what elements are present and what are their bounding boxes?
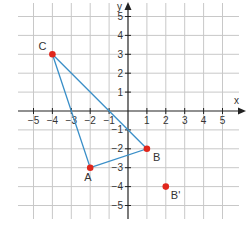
x-axis-label: x bbox=[234, 95, 239, 106]
point-c bbox=[49, 51, 56, 58]
y-tick-label: −1 bbox=[112, 124, 124, 135]
point-b bbox=[144, 146, 151, 153]
x-tick-label: −2 bbox=[84, 115, 96, 126]
point-label: C bbox=[38, 40, 46, 52]
y-tick-label: −3 bbox=[112, 162, 124, 173]
y-tick-label: 3 bbox=[117, 49, 123, 60]
y-tick-label: −5 bbox=[112, 200, 124, 211]
x-tick-label: −5 bbox=[28, 115, 40, 126]
x-tick-label: 1 bbox=[144, 115, 150, 126]
y-tick-label: −4 bbox=[112, 181, 124, 192]
y-axis-arrow-icon bbox=[125, 2, 132, 10]
y-tick-label: 1 bbox=[117, 87, 123, 98]
y-tick-label: 2 bbox=[117, 68, 123, 79]
point-label: B' bbox=[171, 189, 180, 201]
point-b-prime bbox=[163, 183, 170, 190]
x-tick-label: 4 bbox=[201, 115, 207, 126]
point-label: A bbox=[84, 171, 92, 183]
x-tick-label: 2 bbox=[163, 115, 169, 126]
y-tick-label: 4 bbox=[117, 30, 123, 41]
x-tick-label: −4 bbox=[47, 115, 59, 126]
x-axis-arrow-icon bbox=[238, 108, 246, 115]
y-tick-label: 5 bbox=[117, 11, 123, 22]
x-tick-label: 5 bbox=[220, 115, 226, 126]
x-tick-label: 3 bbox=[182, 115, 188, 126]
point-label: B bbox=[153, 151, 160, 163]
y-tick-label: −2 bbox=[112, 143, 124, 154]
coordinate-plane: x y −5−4−3−2−11234554321−1−2−3−4−5 ABCB' bbox=[0, 0, 252, 236]
